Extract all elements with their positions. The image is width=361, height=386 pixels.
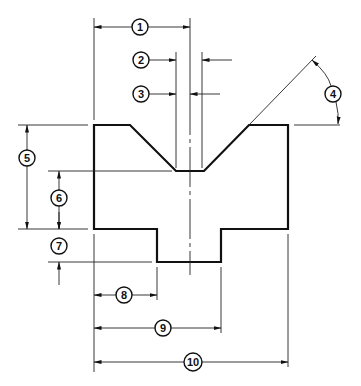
dimension-4-angle: 4 bbox=[312, 60, 341, 124]
svg-text:8: 8 bbox=[121, 289, 127, 301]
dimension-1: 1 bbox=[94, 19, 190, 35]
svg-text:9: 9 bbox=[160, 322, 166, 334]
dimension-8: 8 bbox=[94, 287, 157, 303]
svg-text:5: 5 bbox=[24, 152, 30, 164]
svg-text:2: 2 bbox=[138, 54, 144, 66]
svg-text:7: 7 bbox=[56, 240, 62, 252]
svg-text:1: 1 bbox=[137, 21, 143, 33]
svg-text:3: 3 bbox=[138, 88, 144, 100]
svg-text:4: 4 bbox=[330, 88, 337, 100]
dimension-3: 3 bbox=[133, 86, 220, 102]
part-outline bbox=[94, 125, 288, 262]
dimension-5: 5 bbox=[19, 125, 35, 229]
svg-text:6: 6 bbox=[56, 192, 62, 204]
dimension-10: 10 bbox=[94, 353, 288, 371]
dimension-9: 9 bbox=[94, 320, 221, 336]
technical-drawing: 1 2 3 4 5 6 7 bbox=[0, 0, 361, 386]
svg-text:10: 10 bbox=[187, 356, 199, 368]
dimension-7: 7 bbox=[51, 212, 67, 285]
dimension-2: 2 bbox=[133, 52, 232, 68]
